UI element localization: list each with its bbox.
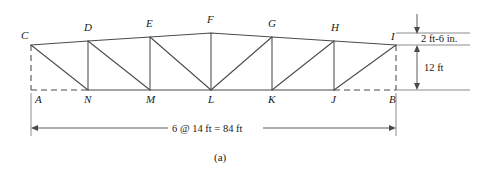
diagonal-K-H: [272, 41, 334, 90]
node-label-N: N: [83, 93, 92, 105]
node-label-G: G: [268, 17, 276, 29]
node-label-C: C: [21, 29, 29, 41]
node-label-L: L: [207, 93, 214, 105]
node-label-I: I: [390, 30, 396, 42]
node-label-D: D: [83, 21, 92, 33]
span-arrow-head-left: [31, 125, 38, 131]
node-label-H: H: [330, 21, 340, 33]
diagonal-members: [31, 37, 396, 90]
truss-figure: C D E F G H I A N M L K J B 2 ft-: [0, 0, 478, 174]
span-arrow-head-right: [389, 125, 396, 131]
figure-caption: (a): [214, 151, 227, 164]
node-label-B: B: [389, 93, 396, 105]
height-dimension: 12 ft: [414, 45, 444, 90]
node-label-K: K: [267, 93, 276, 105]
truss-diagram: C D E F G H I A N M L K J B 2 ft-: [0, 0, 478, 174]
node-label-E: E: [145, 17, 153, 29]
camber-dimension: 2 ft-6 in.: [414, 14, 457, 44]
node-label-M: M: [145, 93, 156, 105]
diagonal-L-G: [211, 37, 272, 90]
height-dim-label: 12 ft: [424, 62, 444, 73]
top-chord: [31, 33, 396, 45]
camber-dim-label: 2 ft-6 in.: [421, 33, 457, 44]
bottom-node-labels: A N M L K J B: [34, 93, 396, 105]
node-label-F: F: [206, 13, 214, 25]
top-chord-polyline: [31, 33, 396, 45]
diagonal-D-M: [88, 41, 150, 90]
height-arrow-head-top: [414, 45, 420, 52]
diagonal-C-N: [31, 45, 88, 90]
span-dim-label: 6 @ 14 ft = 84 ft: [172, 123, 243, 134]
node-label-J: J: [331, 93, 337, 105]
top-node-labels: C D E F G H I: [21, 13, 396, 42]
height-arrow-head-bottom: [414, 83, 420, 90]
diagonal-J-I: [334, 45, 396, 90]
diagonal-E-L: [150, 37, 211, 90]
node-label-A: A: [34, 93, 42, 105]
